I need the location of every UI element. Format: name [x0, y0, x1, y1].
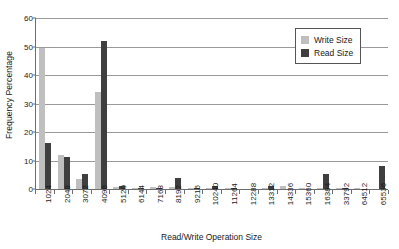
legend-item-write-size: Write Size	[301, 33, 353, 46]
legend-item-read-size: Read Size	[301, 46, 353, 59]
x-axis-tick-label-cell: 13312	[258, 194, 277, 228]
x-axis-tick-label: 15360	[304, 183, 313, 205]
x-axis-title: Read/Write Operation Size	[35, 232, 388, 242]
bar-group	[55, 18, 74, 189]
x-axis-tick-label: 4096	[100, 185, 109, 203]
bar-group	[129, 18, 148, 189]
y-axis-tick-label: 60	[24, 14, 33, 23]
y-axis-title: Frequency Percentage	[2, 0, 16, 190]
legend-label-write-size: Write Size	[314, 35, 353, 45]
y-axis-tick-label: 20	[24, 128, 33, 137]
bar-group	[36, 18, 55, 189]
x-axis-tick-label-cell: 33792	[332, 194, 351, 228]
y-axis-tick-label: 10	[24, 156, 33, 165]
x-axis-tick-label: 12288	[249, 183, 258, 205]
x-axis-tick-label: 8192	[174, 185, 183, 203]
x-axis-tick-label-cell: 65536	[369, 194, 388, 228]
x-axis-tick-label: 9216	[193, 185, 202, 203]
bar-group	[221, 18, 240, 189]
x-axis-tick-label: 64512	[360, 183, 369, 205]
x-axis-tick-label: 16384	[323, 183, 332, 205]
x-axis-tick-label-cell: 12288	[239, 194, 258, 228]
x-axis-tick-label: 33792	[342, 183, 351, 205]
x-axis-tick-label-cell: 14336	[277, 194, 296, 228]
x-axis-tick-label-cell: 6144	[128, 194, 147, 228]
x-axis-tick-label: 3072	[81, 185, 90, 203]
bar-group	[184, 18, 203, 189]
x-axis-tick-labels: 1024204830724096512061447168819292161024…	[35, 194, 388, 228]
legend-swatch-write-size	[301, 36, 309, 44]
x-axis-tick-label-cell: 11264	[221, 194, 240, 228]
x-axis-tick-label-cell: 8192	[165, 194, 184, 228]
bar-group	[166, 18, 185, 189]
x-axis-tick-label: 14336	[286, 183, 295, 205]
x-axis-tick-label: 10240	[211, 183, 220, 205]
x-axis-tick-label-cell: 1024	[35, 194, 54, 228]
x-axis-tick-label: 65536	[379, 183, 388, 205]
x-axis-tick-label-cell: 3072	[72, 194, 91, 228]
x-axis-tick-label-cell: 64512	[351, 194, 370, 228]
bar-group	[258, 18, 277, 189]
bar-group	[370, 18, 389, 189]
x-axis-tick-label-cell: 7168	[146, 194, 165, 228]
x-axis-tick-label-cell: 9216	[184, 194, 203, 228]
x-axis-tick-label: 6144	[137, 185, 146, 203]
y-axis-tick-label: 50	[24, 42, 33, 51]
y-axis-tick-label: 0	[29, 185, 33, 194]
bar-group	[73, 18, 92, 189]
y-axis-tick-label: 40	[24, 71, 33, 80]
y-axis-tick-label: 30	[24, 99, 33, 108]
bar-group	[147, 18, 166, 189]
x-axis-tick-label: 7168	[156, 185, 165, 203]
x-axis-tick-label: 13312	[267, 183, 276, 205]
y-axis-title-text: Frequency Percentage	[4, 51, 14, 139]
bar-read-size	[101, 41, 107, 189]
bar-group	[92, 18, 111, 189]
legend-swatch-read-size	[301, 49, 309, 57]
x-axis-tick-label: 2048	[63, 185, 72, 203]
x-axis-tick-label-cell: 5120	[109, 194, 128, 228]
bar-group	[110, 18, 129, 189]
bar-chart: Frequency Percentage 0102030405060 10242…	[0, 0, 399, 249]
x-axis-tick-label-cell: 10240	[202, 194, 221, 228]
x-axis-tick-mark	[388, 190, 389, 194]
x-axis-tick-label-cell: 16384	[314, 194, 333, 228]
bar-group	[277, 18, 296, 189]
x-axis-tick-label: 5120	[119, 185, 128, 203]
x-axis-tick-label-cell: 2048	[54, 194, 73, 228]
bar-group	[203, 18, 222, 189]
bar-read-size	[45, 143, 51, 189]
chart-legend: Write Size Read Size	[295, 28, 361, 64]
x-axis-tick-label: 1024	[44, 185, 53, 203]
legend-label-read-size: Read Size	[314, 48, 353, 58]
bar-group	[240, 18, 259, 189]
x-axis-tick-label-cell: 15360	[295, 194, 314, 228]
x-axis-tick-label: 11264	[230, 183, 239, 205]
x-axis-tick-label-cell: 4096	[91, 194, 110, 228]
